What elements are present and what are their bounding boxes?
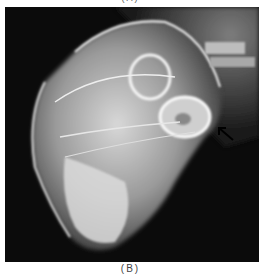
radiograph-image — [5, 7, 259, 262]
figure-caption-a: (A) — [0, 0, 261, 3]
figure-caption-b: (B) — [0, 263, 261, 274]
arrow-annotation-icon — [215, 124, 237, 144]
